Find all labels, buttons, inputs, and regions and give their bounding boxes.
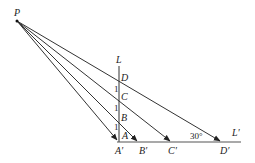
label-A-prime: A′ bbox=[114, 145, 124, 156]
ray-P-A-prime bbox=[17, 21, 117, 140]
segment-label-BA: 1 bbox=[114, 122, 119, 132]
label-P: P bbox=[13, 7, 20, 18]
segment-label-DC: 1 bbox=[114, 84, 119, 94]
label-B-prime: B′ bbox=[139, 145, 148, 156]
angle-label-30: 30° bbox=[190, 131, 203, 141]
label-D: D bbox=[120, 72, 129, 83]
label-C-prime: C′ bbox=[168, 145, 178, 156]
label-L: L bbox=[115, 54, 122, 65]
point-P bbox=[16, 20, 19, 23]
geometry-diagram: P L D C B A 1 1 1 A′ B′ C′ D′ L′ 30° bbox=[0, 0, 255, 163]
label-C: C bbox=[121, 91, 128, 102]
label-L-prime: L′ bbox=[231, 127, 241, 138]
label-B: B bbox=[121, 112, 127, 123]
ray-P-C-prime bbox=[17, 21, 170, 141]
segment-label-CB: 1 bbox=[114, 103, 119, 113]
label-A: A bbox=[121, 130, 129, 141]
label-D-prime: D′ bbox=[219, 145, 230, 156]
